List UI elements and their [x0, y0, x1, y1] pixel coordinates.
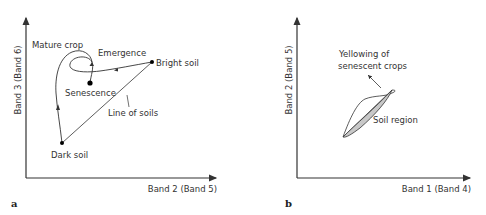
panel-a: Band 3 (Band 6) Band 2 (Band 5) a Mature…: [11, 18, 217, 209]
bright-soil-point: [150, 60, 154, 64]
line-of-soils: [62, 62, 152, 143]
x-axis-label-b: Band 1 (Band 4): [402, 184, 471, 194]
mature-crop-label: Mature crop: [32, 40, 83, 50]
panel-label-b: b: [285, 198, 292, 209]
diagram-canvas: Band 3 (Band 6) Band 2 (Band 5) a Mature…: [0, 0, 486, 215]
dark-soil-label: Dark soil: [51, 150, 88, 160]
soil-region: [343, 90, 392, 137]
dark-soil-point: [60, 141, 64, 145]
crop-trajectory: [70, 57, 152, 83]
senescence-point: [87, 80, 92, 85]
x-axis-label-a: Band 2 (Band 5): [148, 184, 217, 194]
line-of-soils-label: Line of soils: [108, 108, 159, 118]
panel-b: Band 2 (Band 5) Band 1 (Band 4) b Yellow…: [284, 18, 471, 209]
yellowing-label-line1: Yellowing of: [338, 49, 390, 59]
y-axis-label-a: Band 3 (Band 6): [13, 45, 23, 114]
y-axis-label-b: Band 2 (Band 5): [284, 45, 294, 114]
downward-arrow: [90, 62, 95, 66]
upward-arrow: [56, 104, 60, 110]
panel-label-a: a: [11, 198, 18, 209]
bright-soil-label: Bright soil: [156, 58, 199, 68]
line-of-soils-leader: [127, 95, 129, 107]
yellowing-arrow: [368, 75, 381, 88]
soil-region-label: Soil region: [373, 115, 418, 125]
yellowing-label-line2: senescent crops: [338, 61, 408, 71]
emergence-label: Emergence: [98, 48, 146, 58]
senescence-label: Senescence: [65, 88, 116, 98]
